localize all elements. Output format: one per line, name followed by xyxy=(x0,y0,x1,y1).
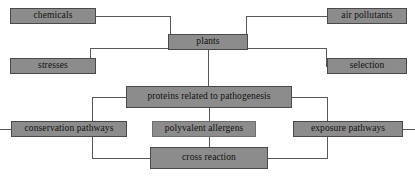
node-label: selection xyxy=(350,61,385,71)
connector-air-to-plants xyxy=(246,16,327,34)
node-label: air pollutants xyxy=(341,11,392,21)
node-cross-reaction[interactable]: cross reaction xyxy=(150,147,268,169)
node-plants[interactable]: plants xyxy=(168,34,248,50)
node-label: cross reaction xyxy=(182,153,236,163)
node-air-pollutants[interactable]: air pollutants xyxy=(327,8,407,24)
node-proteins-related-to-pathogenesis[interactable]: proteins related to pathogenesis xyxy=(126,86,292,108)
connector-plants-to-stresses xyxy=(90,48,168,66)
node-label: chemicals xyxy=(34,11,73,21)
node-polyvalent-allergens[interactable]: polyvalent allergens xyxy=(152,121,256,137)
node-label: stresses xyxy=(38,61,68,71)
node-label: polyvalent allergens xyxy=(165,124,244,134)
node-label: conservation pathways xyxy=(25,124,114,134)
node-selection[interactable]: selection xyxy=(327,58,407,74)
node-chemicals[interactable]: chemicals xyxy=(10,8,96,24)
node-label: exposure pathways xyxy=(311,124,385,134)
node-label: proteins related to pathogenesis xyxy=(147,92,270,102)
node-exposure-pathways[interactable]: exposure pathways xyxy=(293,121,403,137)
flowchart-diagram: chemicals air pollutants plants stresses… xyxy=(0,0,415,184)
node-conservation-pathways[interactable]: conservation pathways xyxy=(11,121,127,137)
connector-plants-to-selection xyxy=(248,48,327,66)
node-stresses[interactable]: stresses xyxy=(10,58,96,74)
connector-chemicals-to-plants xyxy=(96,16,170,34)
node-label: plants xyxy=(196,37,219,47)
